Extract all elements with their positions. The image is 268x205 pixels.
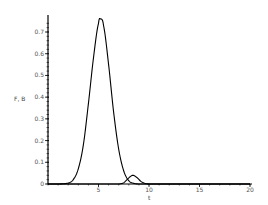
- y-tick-label: 0.3: [34, 115, 44, 122]
- x-tick-label: 15: [196, 186, 204, 193]
- y-tick-label: 0.4: [34, 93, 44, 100]
- x-tick-label: 5: [97, 186, 101, 193]
- series-line-F: [48, 19, 250, 184]
- series-line-B: [48, 175, 250, 184]
- x-axis-label: t: [148, 194, 151, 201]
- line-chart: 00.10.20.30.40.50.60.7 5101520 F, B t: [0, 0, 268, 205]
- x-tick-label: 20: [246, 186, 254, 193]
- y-axis: 00.10.20.30.40.50.60.7: [34, 15, 49, 187]
- x-axis: 5101520: [48, 184, 254, 193]
- y-tick-label: 0.5: [34, 71, 44, 78]
- plot-area: [48, 19, 250, 184]
- y-axis-label: F, B: [14, 95, 25, 102]
- y-tick-label: 0.2: [34, 137, 44, 144]
- y-tick-label: 0.7: [34, 28, 44, 35]
- x-tick-label: 10: [145, 186, 153, 193]
- y-tick-label: 0: [40, 180, 44, 187]
- y-tick-label: 0.6: [34, 50, 44, 57]
- y-tick-label: 0.1: [34, 158, 44, 165]
